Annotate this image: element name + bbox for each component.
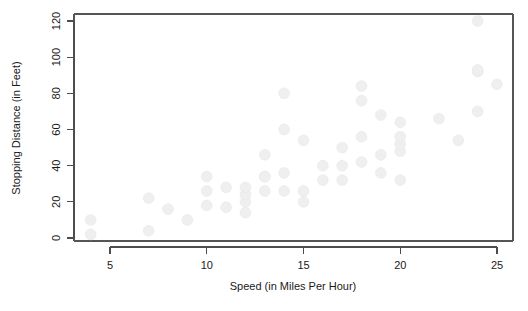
data-point xyxy=(201,200,212,211)
data-point xyxy=(298,196,309,207)
x-axis-title: Speed (in Miles Per Hour) xyxy=(230,280,357,292)
y-tick-label: 20 xyxy=(50,196,62,208)
data-point xyxy=(472,16,483,27)
data-point xyxy=(395,131,406,142)
data-point xyxy=(453,135,464,146)
data-point xyxy=(298,135,309,146)
data-point xyxy=(221,202,232,213)
y-axis-ticks xyxy=(67,21,74,238)
data-point xyxy=(201,171,212,182)
data-point xyxy=(376,149,387,160)
data-point xyxy=(85,215,96,226)
data-point xyxy=(240,182,251,193)
y-tick-label: 100 xyxy=(50,48,62,66)
data-point xyxy=(492,79,503,90)
data-point xyxy=(376,168,387,179)
x-axis-tick-labels: 510152025 xyxy=(107,259,503,271)
data-point xyxy=(395,117,406,128)
data-point xyxy=(259,149,270,160)
data-point xyxy=(376,110,387,121)
data-point xyxy=(434,113,445,124)
x-tick-label: 15 xyxy=(297,259,309,271)
y-axis: 020406080100120 xyxy=(50,12,74,241)
x-tick-label: 10 xyxy=(201,259,213,271)
data-point xyxy=(356,81,367,92)
data-point xyxy=(201,186,212,197)
x-tick-label: 5 xyxy=(107,259,113,271)
data-point xyxy=(279,168,290,179)
data-point xyxy=(240,207,251,218)
data-point xyxy=(143,225,154,236)
data-point xyxy=(163,204,174,215)
y-tick-label: 60 xyxy=(50,123,62,135)
y-tick-label: 40 xyxy=(50,160,62,172)
y-tick-label: 120 xyxy=(50,12,62,30)
x-axis: 510152025 xyxy=(107,247,503,271)
y-tick-label: 0 xyxy=(50,235,62,241)
data-point xyxy=(356,157,367,168)
data-point xyxy=(472,64,483,75)
data-point xyxy=(259,171,270,182)
scatter-plot-canvas: 020406080100120 510152025 Speed (in Mile… xyxy=(0,0,528,311)
y-tick-label: 80 xyxy=(50,87,62,99)
data-point xyxy=(395,175,406,186)
data-point xyxy=(259,186,270,197)
data-point xyxy=(317,160,328,171)
data-point xyxy=(279,124,290,135)
data-point xyxy=(85,229,96,240)
y-axis-tick-labels: 020406080100120 xyxy=(50,12,62,241)
x-tick-label: 25 xyxy=(491,259,503,271)
data-point xyxy=(317,175,328,186)
data-point xyxy=(356,95,367,106)
data-point xyxy=(143,193,154,204)
data-point xyxy=(221,182,232,193)
data-point xyxy=(279,186,290,197)
data-point xyxy=(337,160,348,171)
x-tick-label: 20 xyxy=(394,259,406,271)
y-axis-title: Stopping Distance (in Feet) xyxy=(10,61,22,194)
data-point xyxy=(182,215,193,226)
data-point xyxy=(356,131,367,142)
x-axis-ticks xyxy=(110,247,497,254)
plot-panel-background xyxy=(74,14,513,241)
data-point xyxy=(337,175,348,186)
data-point xyxy=(337,142,348,153)
data-point xyxy=(279,88,290,99)
data-point xyxy=(472,106,483,117)
chart-figure: 020406080100120 510152025 Speed (in Mile… xyxy=(0,0,528,311)
data-point xyxy=(298,186,309,197)
